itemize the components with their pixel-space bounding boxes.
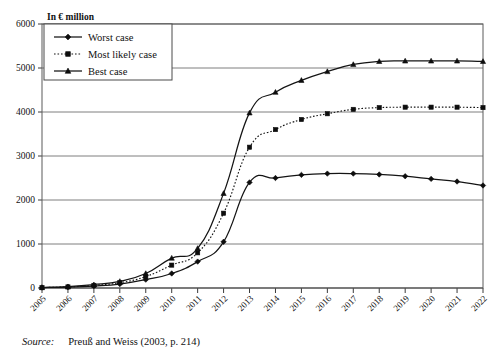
series-line-best-case: [42, 61, 483, 288]
y-tick-label: 3000: [16, 151, 35, 161]
legend-label: Best case: [88, 66, 128, 77]
x-tick-label: 2022: [469, 293, 489, 313]
y-tick-label: 2000: [16, 195, 35, 205]
data-series-group: [39, 58, 485, 290]
x-tick-label: 2017: [339, 293, 359, 313]
legend-label: Worst case: [88, 32, 134, 43]
y-tick-label: 5000: [16, 63, 35, 73]
x-tick-label: 2013: [236, 293, 256, 313]
source-caption: Source:Preuß and Weiss (2003, p. 214): [22, 336, 200, 347]
series-markers-best-case: [39, 58, 485, 289]
x-tick-label: 2020: [417, 293, 437, 313]
y-tick-label: 1000: [16, 239, 35, 249]
x-tick-label: 2010: [158, 293, 178, 313]
x-tick-label: 2011: [184, 293, 204, 313]
legend-label: Most likely case: [88, 49, 157, 60]
series-line-most-likely-case: [42, 107, 483, 287]
x-tick-label: 2007: [80, 293, 100, 313]
x-tick-label: 2008: [106, 293, 126, 313]
x-axis-labels-group: 2005200620072008200920102011201220132014…: [28, 293, 489, 313]
x-tick-label: 2015: [288, 293, 308, 313]
figure-container: 0100020003000400050006000 20052006200720…: [0, 0, 504, 356]
x-tick-label: 2006: [54, 293, 74, 313]
series-markers-most-likely-case: [40, 105, 485, 290]
x-tick-label: 2005: [28, 293, 48, 313]
y-axis-labels-group: 0100020003000400050006000: [16, 19, 35, 293]
chart-legend: Worst caseMost likely caseBest case: [44, 24, 172, 80]
square-marker: [66, 52, 71, 57]
source-reference: Preuß and Weiss (2003, p. 214): [68, 336, 200, 347]
x-tick-label: 2021: [443, 293, 463, 313]
x-tick-label: 2018: [365, 293, 385, 313]
x-tick-label: 2012: [210, 293, 230, 313]
x-tick-label: 2009: [132, 293, 152, 313]
x-tick-label: 2016: [313, 293, 333, 313]
y-tick-label: 4000: [16, 107, 35, 117]
y-tick-label: 0: [30, 283, 35, 293]
y-tick-label: 6000: [16, 19, 35, 29]
scenario-line-chart: 0100020003000400050006000 20052006200720…: [0, 0, 504, 356]
series-line-worst-case: [42, 173, 483, 287]
series-markers-worst-case: [39, 171, 485, 290]
x-tick-label: 2019: [391, 293, 411, 313]
x-axis-ticks-group: [42, 288, 483, 293]
x-tick-label: 2014: [262, 293, 282, 313]
source-prefix: Source:: [22, 336, 54, 347]
y-axis-ticks-group: [38, 24, 42, 288]
unit-label: In € million: [47, 12, 95, 22]
